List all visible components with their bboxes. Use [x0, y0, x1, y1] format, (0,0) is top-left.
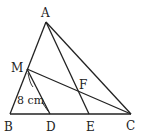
point-label-e: E: [86, 120, 95, 134]
measurement-label-md: 8 cm: [17, 94, 45, 107]
segment-ac: [46, 22, 131, 114]
point-label-f: F: [79, 78, 87, 92]
diagram-canvas: A M F B D E C 8 cm: [0, 0, 148, 135]
point-label-c: C: [126, 119, 135, 133]
geometry-diagram: A M F B D E C 8 cm: [0, 0, 148, 135]
point-label-m: M: [11, 61, 23, 75]
point-label-a: A: [40, 6, 50, 20]
segment-ae: [46, 22, 89, 114]
point-label-d: D: [46, 120, 56, 134]
point-label-b: B: [4, 120, 13, 134]
segment-md: [27, 69, 50, 114]
